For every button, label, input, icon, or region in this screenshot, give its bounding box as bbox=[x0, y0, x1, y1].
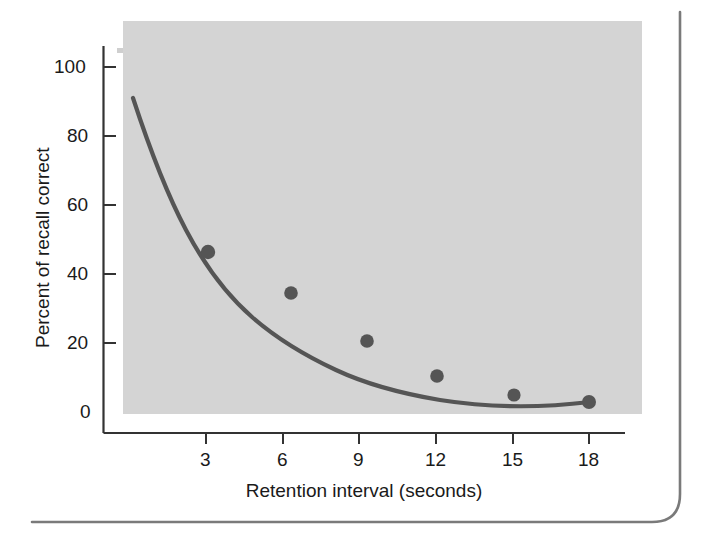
y-axis-title: Percent of recall correct bbox=[32, 147, 54, 348]
data-point-9s bbox=[360, 334, 374, 348]
y-tick-label-100: 100 bbox=[54, 56, 86, 78]
data-point-15s bbox=[507, 388, 520, 401]
data-point-6s bbox=[284, 286, 298, 300]
x-tick-label-18: 18 bbox=[578, 449, 599, 471]
y-tick-label-40: 40 bbox=[67, 263, 88, 285]
data-point-18s bbox=[582, 395, 596, 409]
x-tick-label-9: 9 bbox=[353, 449, 364, 471]
x-tick-label-15: 15 bbox=[502, 449, 523, 471]
forgetting-curve-figure: 100 80 60 40 20 0 3 6 9 12 15 18 Percent… bbox=[0, 0, 701, 500]
y-tick-label-20: 20 bbox=[67, 332, 88, 354]
y-tick-label-0: 0 bbox=[80, 401, 91, 423]
x-tick-label-12: 12 bbox=[425, 449, 446, 471]
data-point-3s bbox=[201, 245, 215, 259]
y-tick-label-80: 80 bbox=[67, 125, 88, 147]
x-tick-label-6: 6 bbox=[277, 449, 288, 471]
x-axis-title: Retention interval (seconds) bbox=[103, 480, 625, 502]
chart-canvas bbox=[0, 0, 701, 500]
x-tick-label-3: 3 bbox=[200, 449, 211, 471]
y-tick-label-60: 60 bbox=[67, 194, 88, 216]
data-point-12s bbox=[430, 369, 444, 383]
figure-page: 100 80 60 40 20 0 3 6 9 12 15 18 Percent… bbox=[0, 0, 701, 544]
